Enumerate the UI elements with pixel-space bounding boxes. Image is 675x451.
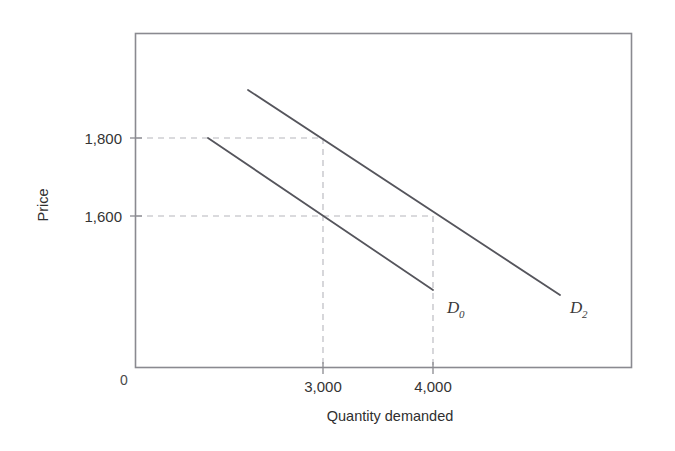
x-tick-label-3000: 3,000	[304, 378, 342, 395]
x-tick-label-4000: 4,000	[414, 378, 452, 395]
curve-label-d2-subscript: 2	[582, 308, 588, 320]
curve-label-d2-letter: D	[569, 298, 583, 317]
x-axis-title: Quantity demanded	[327, 408, 454, 424]
y-tick-label-1800: 1,800	[84, 130, 122, 147]
origin-label: 0	[120, 372, 128, 388]
demand-curve-figure: 1,800 1,600 3,000 4,000 0 Price Quantity…	[0, 0, 675, 451]
plot-frame	[136, 34, 632, 368]
curve-label-d0-subscript: 0	[459, 308, 465, 320]
curve-label-d0-letter: D	[446, 298, 460, 317]
y-tick-label-1600: 1,600	[84, 208, 122, 225]
y-axis-title: Price	[35, 188, 51, 221]
chart-canvas: 1,800 1,600 3,000 4,000 0 Price Quantity…	[0, 0, 675, 451]
